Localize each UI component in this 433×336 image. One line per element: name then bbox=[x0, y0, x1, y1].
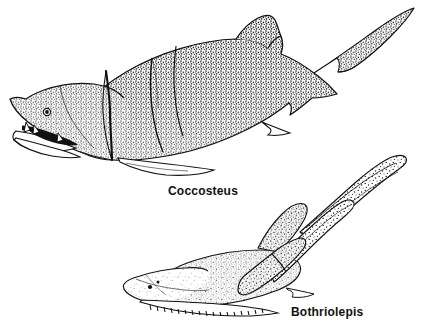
bothriolepis-eye bbox=[148, 285, 152, 289]
illustration-figure: Coccosteus Bothriolepis bbox=[0, 0, 433, 336]
bothriolepis-eye-second bbox=[157, 281, 160, 284]
species-label-coccosteus: Coccosteus bbox=[168, 184, 238, 198]
coccosteus-pupil bbox=[45, 110, 49, 114]
species-label-bothriolepis: Bothriolepis bbox=[291, 305, 363, 319]
fish-illustration-canvas bbox=[0, 0, 433, 336]
